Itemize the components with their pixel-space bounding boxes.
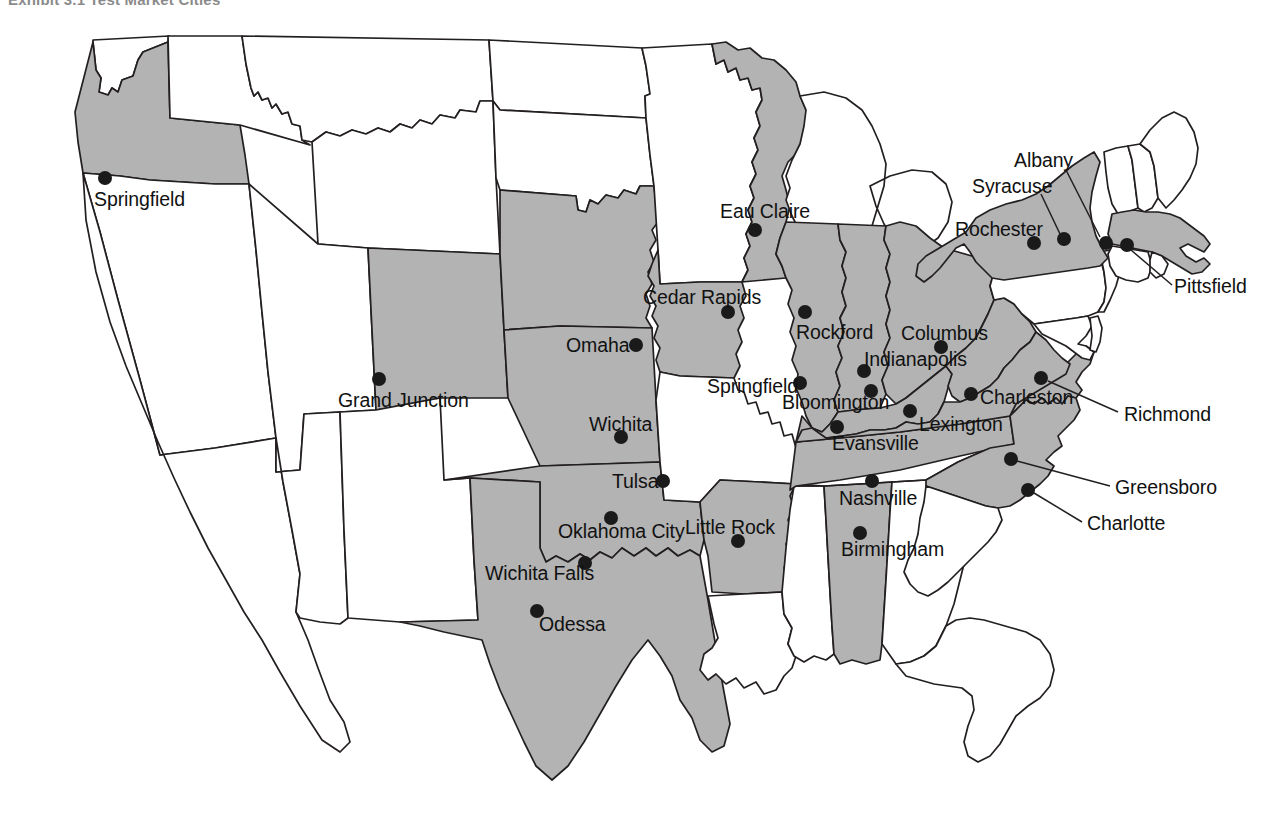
city-label: Albany [1014, 151, 1073, 171]
state-new-mexico [340, 398, 478, 622]
city-label: Nashville [839, 489, 917, 509]
city-label: Oklahoma City [558, 522, 685, 542]
leader-line [1034, 493, 1082, 522]
city-label: Wichita [589, 415, 652, 435]
city-dot [1021, 483, 1035, 497]
city-label: Odessa [539, 615, 606, 635]
city-label: Evansville [832, 434, 919, 454]
city-dot [964, 387, 978, 401]
city-label: Eau Claire [720, 202, 810, 222]
city-dot [98, 171, 112, 185]
city-label: Charleston [980, 388, 1073, 408]
city-label: Richmond [1124, 405, 1211, 425]
states-layer [75, 36, 1210, 780]
us-test-market-map: SpringfieldGrand JunctionOmahaWichitaTul… [0, 0, 1272, 830]
city-label: Omaha [566, 336, 629, 356]
city-dot [1004, 452, 1018, 466]
city-label: Grand Junction [338, 391, 469, 411]
city-label: Little Rock [685, 518, 775, 538]
city-label: Birmingham [841, 540, 944, 560]
city-label: Rochester [955, 220, 1043, 240]
city-label: Cedar Rapids [643, 288, 761, 308]
city-label: Springfield [94, 190, 185, 210]
city-label: Lexington [919, 415, 1003, 435]
state-colorado [368, 248, 508, 410]
city-dot [903, 404, 917, 418]
city-label: Tulsa [612, 472, 658, 492]
city-dot [372, 372, 386, 386]
exhibit-page: Exhibit 3.1 Test Market Cities [0, 0, 1272, 830]
city-label: Indianapolis [864, 350, 967, 370]
city-dot [865, 474, 879, 488]
city-label: Columbus [901, 324, 988, 344]
city-label: Charlotte [1087, 514, 1165, 534]
city-label: Wichita Falls [485, 564, 594, 584]
state-north-dakota [489, 40, 650, 118]
city-dot [1120, 238, 1134, 252]
state-minnesota [642, 44, 762, 284]
state-delaware [1090, 316, 1102, 352]
city-label: Bloomington [782, 393, 889, 413]
city-dot [1034, 371, 1048, 385]
city-label: Greensboro [1115, 478, 1217, 498]
city-label: Rockford [796, 323, 873, 343]
city-dot [629, 338, 643, 352]
city-dot [748, 223, 762, 237]
city-label: Syracuse [972, 177, 1053, 197]
city-dot [798, 305, 812, 319]
city-dot [1057, 232, 1071, 246]
city-label: Pittsfield [1174, 277, 1247, 297]
city-dot [1099, 236, 1113, 250]
